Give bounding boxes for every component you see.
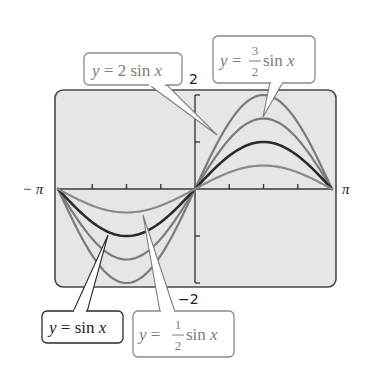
label-3-2sin: y = 3 2 sin x [213,36,315,83]
eq-var-x: x [209,325,218,344]
eq-sin: sin [186,325,210,344]
fraction-denominator: 2 [252,64,259,79]
svg-text:sin x: sin x [186,325,218,344]
label-2sin: y = 2 sin x [84,53,182,85]
eq-sin: sin [263,51,287,70]
x-max-label: π [342,181,350,197]
label-half-sin: y = 1 2 sin x [133,311,234,357]
chart: y = 2 sin x y = 3 2 sin x y = sin x y = … [0,0,370,379]
x-min-label: − π [22,181,44,197]
fraction-numerator: 3 [252,43,259,58]
eq-equals: = [228,51,242,70]
eq-body: = sin [57,318,99,337]
y-max-label: 2 [189,71,198,87]
eq-var-x: x [286,51,295,70]
eq-var-y: y [47,318,57,337]
eq-var-x: x [98,318,107,337]
fraction-numerator: 1 [175,317,182,332]
eq-equals: = [147,325,161,344]
y-min-label: −2 [178,291,199,307]
eq-body: = 2 sin [100,61,155,80]
svg-text:y = sin x: y = sin x [47,318,107,337]
svg-text:sin x: sin x [263,51,295,70]
eq-var-x: x [153,61,162,80]
eq-var-y: y [90,61,100,80]
fraction-denominator: 2 [175,338,182,353]
svg-text:y =: y = [218,51,241,70]
svg-text:y = 2 sin x: y = 2 sin x [90,61,162,80]
eq-var-y: y [218,51,228,70]
label-sin: y = sin x [42,311,123,343]
eq-var-y: y [137,325,147,344]
svg-text:y =: y = [137,325,160,344]
